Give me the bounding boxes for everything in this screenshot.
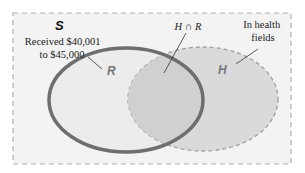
venn-diagram: S Received $40,001 to $45,000 R H ∩ R In… [0,0,305,173]
set-h-description-line1: In health [243,19,281,30]
set-r-description-line1: Received $40,001 [25,36,101,47]
set-r-description-line2: to $45,000 [40,49,85,60]
set-r-label: R [107,64,116,78]
set-h-label: H [218,63,227,77]
universe-label: S [55,18,64,33]
set-h-description-line2: fields [251,32,274,43]
intersection-label: H ∩ R [174,21,202,32]
